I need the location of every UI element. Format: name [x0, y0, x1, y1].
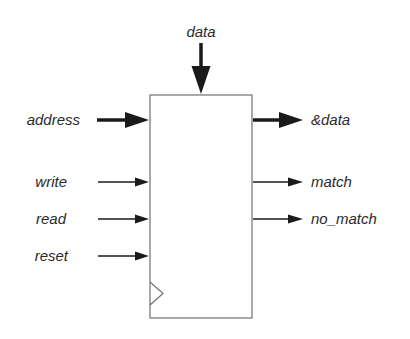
block-box [150, 95, 252, 318]
input-address-label: address [27, 111, 81, 128]
output-match-label: match [311, 173, 352, 190]
input-write-arrow [98, 178, 149, 187]
block-diagram: data address write read reset &data matc… [0, 0, 410, 339]
input-data-arrow [192, 43, 211, 94]
output-no-match-label: no_match [311, 210, 377, 227]
output-match-arrow [253, 178, 303, 187]
input-reset-label: reset [35, 247, 69, 264]
output-and-data-arrow [253, 112, 303, 128]
input-address-arrow [97, 112, 149, 128]
input-reset-arrow [98, 252, 149, 261]
output-no-match-arrow [253, 215, 303, 224]
input-write-label: write [35, 173, 67, 190]
output-and-data-label: &data [311, 111, 350, 128]
input-data-label: data [186, 23, 215, 40]
input-read-arrow [98, 215, 149, 224]
input-read-label: read [36, 210, 67, 227]
